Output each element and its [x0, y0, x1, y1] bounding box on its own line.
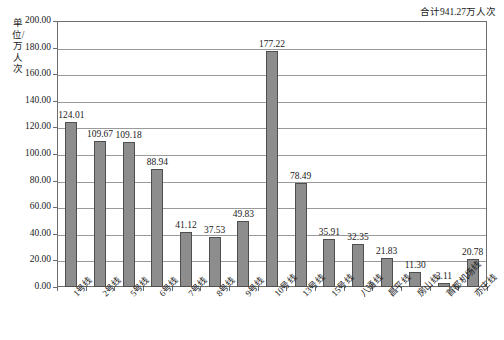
gridline	[58, 235, 486, 236]
y-axis-tick-label: 180.00	[9, 43, 51, 53]
y-axis-tick-mark	[53, 260, 57, 261]
y-axis-tick-mark	[53, 127, 57, 128]
y-axis-tick-label: 40.00	[9, 229, 51, 239]
y-axis-tick-mark	[53, 21, 57, 22]
y-axis-tick-label: 200.00	[9, 16, 51, 26]
gridline	[58, 75, 486, 76]
plot-area	[57, 21, 487, 287]
y-axis-tick-mark	[53, 48, 57, 49]
gridline	[58, 208, 486, 209]
y-axis-tick-label: 120.00	[9, 122, 51, 132]
total-annotation: 合计941.27万人次	[420, 4, 496, 18]
bar-chart: 合计941.27万人次 单位/万人次 0.0020.0040.0060.0080…	[0, 0, 504, 340]
y-axis-tick-label: 60.00	[9, 202, 51, 212]
gridline	[58, 128, 486, 129]
y-axis-tick-label: 20.00	[9, 255, 51, 265]
x-axis-tick-mark	[57, 287, 58, 291]
y-axis-tick-mark	[53, 207, 57, 208]
y-axis-tick-mark	[53, 154, 57, 155]
y-axis-tick-label: 80.00	[9, 176, 51, 186]
y-axis-tick-label: 100.00	[9, 149, 51, 159]
gridline	[58, 155, 486, 156]
y-axis-tick-label: 140.00	[9, 96, 51, 106]
y-axis-tick-mark	[53, 101, 57, 102]
y-axis-tick-label: 160.00	[9, 69, 51, 79]
gridline	[58, 102, 486, 103]
y-axis-tick-mark	[53, 234, 57, 235]
gridline	[58, 261, 486, 262]
y-axis-tick-label: 0.00	[9, 282, 51, 292]
gridline	[58, 49, 486, 50]
y-axis-tick-mark	[53, 181, 57, 182]
gridline	[58, 182, 486, 183]
y-axis-tick-mark	[53, 74, 57, 75]
